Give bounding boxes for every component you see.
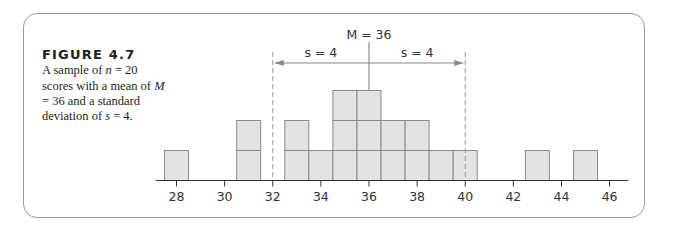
score-box (357, 91, 381, 121)
x-tick-label: 34 (313, 189, 329, 204)
score-box (381, 151, 405, 181)
score-box (525, 151, 549, 181)
x-tick-label: 30 (217, 189, 233, 204)
score-box (237, 151, 261, 181)
score-box (429, 151, 453, 181)
score-box (357, 151, 381, 181)
score-box (309, 151, 333, 181)
x-tick-label: 28 (169, 189, 185, 204)
score-box (285, 121, 309, 151)
x-tick-label: 44 (554, 189, 570, 204)
score-box (574, 151, 598, 181)
mean-label: M = 36 (346, 27, 391, 42)
mean-sd-annotation: M = 36s = 4s = 4 (275, 27, 463, 90)
score-box (405, 121, 429, 151)
x-tick-label: 36 (361, 189, 377, 204)
histogram-bars (165, 91, 598, 181)
x-tick-label: 42 (505, 189, 521, 204)
score-box (237, 121, 261, 151)
score-box (333, 121, 357, 151)
x-tick-label: 40 (457, 189, 473, 204)
sd-right-label: s = 4 (401, 45, 434, 60)
score-box (333, 91, 357, 121)
histogram-chart: 28303234363840424446 M = 36s = 4s = 4 (0, 0, 675, 231)
score-box (381, 121, 405, 151)
score-box (165, 151, 189, 181)
x-axis: 28303234363840424446 (156, 181, 628, 205)
x-tick-label: 38 (409, 189, 425, 204)
score-box (333, 151, 357, 181)
sd-left-label: s = 4 (304, 45, 337, 60)
score-box (405, 151, 429, 181)
score-box (357, 121, 381, 151)
x-tick-label: 46 (602, 189, 618, 204)
x-tick-label: 32 (265, 189, 281, 204)
score-box (285, 151, 309, 181)
